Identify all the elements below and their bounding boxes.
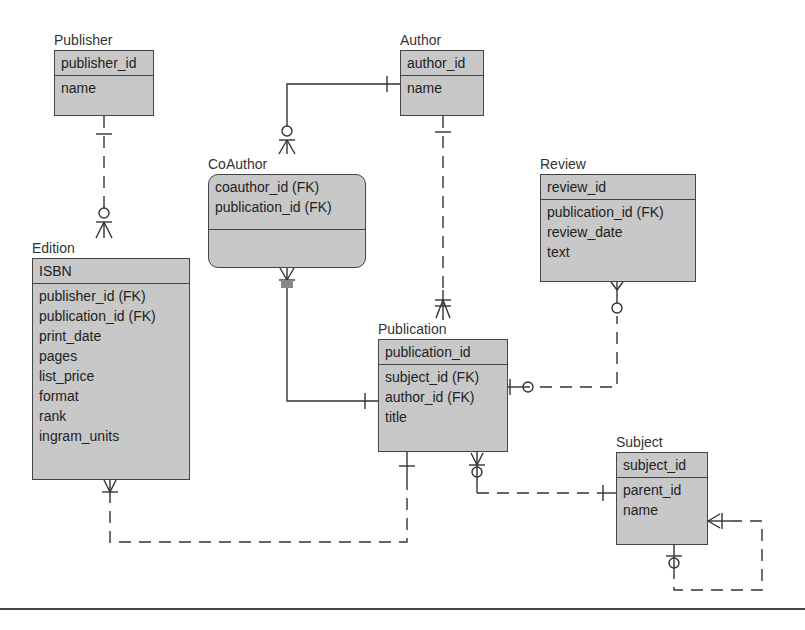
entity-edition[interactable]: ISBN publisher_id (FK) publication_id (F… bbox=[32, 258, 190, 480]
entity-pk: publisher_id bbox=[55, 51, 153, 76]
attr-field: name bbox=[61, 78, 147, 98]
attr-field: ingram_units bbox=[39, 426, 183, 446]
entity-coauthor[interactable]: coauthor_id (FK) publication_id (FK) bbox=[208, 174, 366, 268]
rel-publication-review bbox=[508, 282, 623, 395]
entity-title-publisher: Publisher bbox=[54, 32, 112, 48]
attr-field: rank bbox=[39, 406, 183, 426]
attr-field: format bbox=[39, 386, 183, 406]
bottom-divider bbox=[0, 608, 805, 610]
attr-field: pages bbox=[39, 346, 183, 366]
er-diagram-canvas: Publisher publisher_id name Author autho… bbox=[0, 0, 805, 630]
entity-publication[interactable]: publication_id subject_id (FK) author_id… bbox=[378, 339, 508, 452]
entity-title-author: Author bbox=[400, 32, 441, 48]
attr-field: title bbox=[385, 407, 501, 427]
pk-field: subject_id bbox=[623, 455, 701, 475]
entity-review[interactable]: review_id publication_id (FK) review_dat… bbox=[540, 174, 696, 282]
pk-field: publisher_id bbox=[61, 53, 147, 73]
attr-field: parent_id bbox=[623, 480, 701, 500]
attr-field: name bbox=[407, 78, 477, 98]
pk-field: author_id bbox=[407, 53, 477, 73]
entity-title-subject: Subject bbox=[616, 434, 663, 450]
attr-field: subject_id (FK) bbox=[385, 367, 501, 387]
rel-publication-coauthor bbox=[279, 268, 378, 409]
rel-author-coauthor bbox=[279, 76, 400, 154]
attr-field: author_id (FK) bbox=[385, 387, 501, 407]
entity-author[interactable]: author_id name bbox=[400, 50, 484, 116]
entity-publisher[interactable]: publisher_id name bbox=[54, 50, 154, 116]
rel-publisher-edition bbox=[96, 116, 112, 238]
attr-field: print_date bbox=[39, 326, 183, 346]
entity-title-edition: Edition bbox=[32, 240, 75, 256]
pk-field: publication_id (FK) bbox=[215, 197, 359, 217]
entity-title-review: Review bbox=[540, 156, 586, 172]
attr-field: name bbox=[623, 500, 701, 520]
attr-field: publication_id (FK) bbox=[547, 202, 689, 222]
attr-field: review_date bbox=[547, 222, 689, 242]
pk-field: publication_id bbox=[385, 342, 501, 362]
rel-author-publication bbox=[435, 116, 451, 320]
entity-subject[interactable]: subject_id parent_id name bbox=[616, 452, 708, 545]
rel-subject-publication bbox=[469, 452, 616, 501]
pk-field: ISBN bbox=[39, 261, 183, 281]
attr-field: publication_id (FK) bbox=[39, 306, 183, 326]
attr-field: list_price bbox=[39, 366, 183, 386]
pk-field: review_id bbox=[547, 177, 689, 197]
attr-field: text bbox=[547, 242, 689, 262]
pk-field: coauthor_id (FK) bbox=[215, 177, 359, 197]
attr-field: publisher_id (FK) bbox=[39, 286, 183, 306]
entity-title-coauthor: CoAuthor bbox=[208, 156, 267, 172]
entity-title-publication: Publication bbox=[378, 321, 447, 337]
